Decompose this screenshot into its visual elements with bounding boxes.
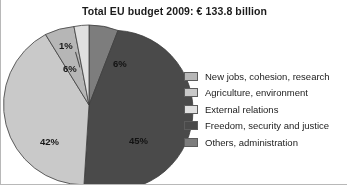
slice-label-agriculture: 42% xyxy=(40,136,59,147)
pie-svg xyxy=(9,22,185,185)
legend-item-external-relations[interactable]: External relations xyxy=(184,101,344,117)
legend-label-new-jobs: New jobs, cohesion, research xyxy=(205,71,330,82)
legend-label-freedom: Freedom, security and justice xyxy=(205,120,329,131)
legend-swatch-agriculture xyxy=(184,88,198,97)
legend-swatch-new-jobs xyxy=(184,72,198,81)
pie-chart-area: 6% 45% 42% 6% 1% xyxy=(9,22,185,185)
slice-label-others: 6% xyxy=(113,58,127,69)
legend-swatch-others xyxy=(184,138,198,147)
legend-label-external-relations: External relations xyxy=(205,104,278,115)
legend-label-others: Others, administration xyxy=(205,137,298,148)
legend-item-others[interactable]: Others, administration xyxy=(184,134,344,150)
chart-title: Total EU budget 2009: € 133.8 billion xyxy=(1,5,347,17)
legend-item-freedom[interactable]: Freedom, security and justice xyxy=(184,118,344,134)
legend-item-agriculture[interactable]: Agriculture, environment xyxy=(184,85,344,101)
slice-label-freedom: 45% xyxy=(129,135,148,146)
legend-label-agriculture: Agriculture, environment xyxy=(205,87,308,98)
slice-label-new-jobs: 6% xyxy=(63,63,77,74)
slice-label-external-relations: 1% xyxy=(59,40,73,51)
pie-chart-figure: Total EU budget 2009: € 133.8 billion 6%… xyxy=(0,0,347,185)
legend-swatch-freedom xyxy=(184,121,198,130)
chart-legend: New jobs, cohesion, research Agriculture… xyxy=(184,68,344,151)
legend-swatch-external-relations xyxy=(184,105,198,114)
legend-item-new-jobs[interactable]: New jobs, cohesion, research xyxy=(184,68,344,84)
